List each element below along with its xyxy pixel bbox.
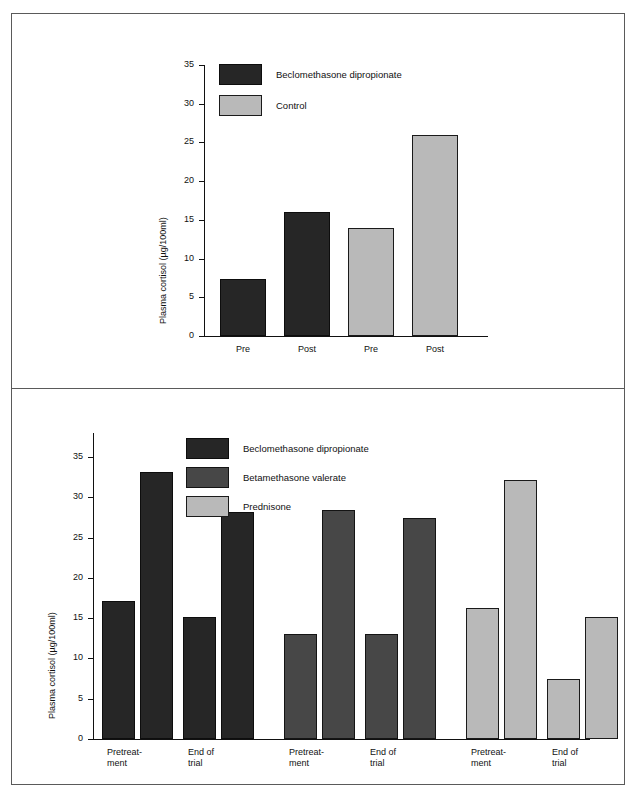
- y-axis-tick: [88, 457, 93, 458]
- bar: [466, 608, 499, 739]
- legend-label: Beclomethasone dipropionate: [243, 444, 369, 454]
- bar: [220, 279, 266, 336]
- x-axis-tick-label: Pre: [348, 344, 394, 355]
- y-axis-tick-label: 15: [57, 613, 83, 622]
- y-axis-tick-label: 5: [168, 292, 194, 301]
- legend-label: Control: [276, 101, 307, 111]
- x-axis-tick-label: Post: [412, 344, 458, 355]
- legend-swatch: [219, 95, 262, 116]
- y-axis-tick: [199, 336, 204, 337]
- y-axis-tick-label: 20: [57, 573, 83, 582]
- y-axis-title: Plasma cortisol (µg/100ml): [159, 217, 168, 324]
- x-axis-tick-label: Pretreat- ment: [471, 747, 541, 768]
- y-axis-tick-label: 30: [57, 492, 83, 501]
- y-axis-tick-label: 35: [168, 60, 194, 69]
- y-axis-tick: [199, 259, 204, 260]
- bar: [183, 617, 216, 739]
- bar: [102, 601, 135, 739]
- y-axis-tick: [88, 699, 93, 700]
- top-bar-chart: 05101520253035Plasma cortisol (µg/100ml)…: [0, 0, 638, 388]
- x-axis-line: [204, 336, 488, 337]
- y-axis-tick-label: 35: [57, 452, 83, 461]
- legend-swatch: [186, 438, 229, 459]
- y-axis-line: [204, 65, 205, 336]
- legend-item: Prednisone: [186, 496, 291, 517]
- y-axis-tick-label: 15: [168, 215, 194, 224]
- bar: [547, 679, 580, 739]
- y-axis-tick-label: 10: [168, 254, 194, 263]
- legend-swatch: [219, 64, 262, 85]
- x-axis-tick-label: Pretreat- ment: [289, 747, 359, 768]
- bar: [585, 617, 618, 739]
- legend-swatch: [186, 467, 229, 488]
- bar: [348, 228, 394, 336]
- y-axis-tick-label: 5: [57, 694, 83, 703]
- y-axis-tick: [88, 658, 93, 659]
- legend-item: Beclomethasone dipropionate: [219, 64, 402, 85]
- y-axis-tick-label: 25: [168, 137, 194, 146]
- bar: [221, 512, 254, 739]
- y-axis-tick-label: 25: [57, 533, 83, 542]
- y-axis-tick: [199, 220, 204, 221]
- bar: [365, 634, 398, 739]
- legend-label: Beclomethasone dipropionate: [276, 70, 402, 80]
- y-axis-tick-label: 30: [168, 99, 194, 108]
- x-axis-tick-label: End of trial: [370, 747, 440, 768]
- legend-item: Control: [219, 95, 307, 116]
- y-axis-tick-label: 0: [168, 331, 194, 340]
- y-axis-tick: [88, 538, 93, 539]
- x-axis-line: [93, 739, 590, 740]
- bar: [412, 135, 458, 336]
- y-axis-tick: [199, 65, 204, 66]
- y-axis-tick-label: 20: [168, 176, 194, 185]
- bar: [504, 480, 537, 739]
- y-axis-title: Plasma cortisol (µg/100ml): [48, 612, 57, 719]
- x-axis-tick-label: Post: [284, 344, 330, 355]
- x-axis-tick-label: End of trial: [188, 747, 258, 768]
- bar: [322, 510, 355, 740]
- bar: [284, 634, 317, 739]
- bottom-bar-chart: 05101520253035Plasma cortisol (µg/100ml)…: [0, 388, 638, 811]
- legend-label: Betamethasone valerate: [243, 473, 346, 483]
- figure-page: 05101520253035Plasma cortisol (µg/100ml)…: [0, 0, 638, 811]
- x-axis-tick-label: Pre: [220, 344, 266, 355]
- x-axis-tick-label: End of trial: [552, 747, 622, 768]
- y-axis-tick: [199, 104, 204, 105]
- x-axis-tick-label: Pretreat- ment: [107, 747, 177, 768]
- y-axis-tick: [199, 142, 204, 143]
- y-axis-tick: [199, 297, 204, 298]
- legend-swatch: [186, 496, 229, 517]
- y-axis-tick: [88, 618, 93, 619]
- y-axis-tick: [88, 497, 93, 498]
- legend-label: Prednisone: [243, 502, 291, 512]
- y-axis-tick: [199, 181, 204, 182]
- y-axis-tick-label: 0: [57, 734, 83, 743]
- y-axis-tick-label: 10: [57, 653, 83, 662]
- y-axis-tick: [88, 578, 93, 579]
- bar: [403, 518, 436, 739]
- y-axis-line: [93, 433, 94, 739]
- bar: [284, 212, 330, 336]
- legend-item: Betamethasone valerate: [186, 467, 346, 488]
- y-axis-tick: [88, 739, 93, 740]
- bar: [140, 472, 173, 739]
- legend-item: Beclomethasone dipropionate: [186, 438, 369, 459]
